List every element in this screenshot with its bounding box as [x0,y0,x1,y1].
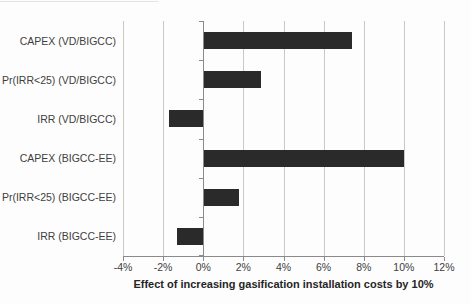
category-axis-tick [199,60,203,61]
bar [177,228,203,245]
category-label: CAPEX (VD/BIGCC) [0,34,116,48]
bar [203,150,404,167]
x-tick-label: 10% [393,261,414,273]
x-tick-label: -2% [154,261,173,273]
x-tick-label: 4% [276,261,291,273]
category-axis-tick [199,21,203,22]
category-axis-tick [199,139,203,140]
bar [203,32,351,49]
category-label: Pr(IRR<25) (VD/BIGCC) [0,73,116,87]
bar [203,71,261,88]
x-tick-label: -4% [114,261,133,273]
gridline [324,21,325,256]
x-tick-label: 6% [316,261,331,273]
category-axis-tick [199,217,203,218]
category-axis-line [203,21,204,256]
category-axis-tick [199,178,203,179]
bar [203,189,239,206]
scan-artifact-line [0,1,158,2]
category-axis-tick [199,99,203,100]
x-tick-label: 2% [236,261,251,273]
category-label: IRR (BIGCC-EE) [0,229,116,243]
gridline [243,21,244,256]
x-tick-label: 12% [433,261,454,273]
category-label: IRR (VD/BIGCC) [0,112,116,126]
gridline [163,21,164,256]
category-axis-tick [199,255,203,256]
plot-area [123,21,444,256]
category-label: CAPEX (BIGCC-EE) [0,151,116,165]
x-tick-label: 8% [356,261,371,273]
category-label: Pr(IRR<25) (BIGCC-EE) [0,190,116,204]
gridline [123,21,124,256]
sensitivity-bar-chart: CAPEX (VD/BIGCC)Pr(IRR<25) (VD/BIGCC)IRR… [0,0,471,304]
bar [169,110,203,127]
gridline [404,21,405,256]
x-axis-title: Effect of increasing gasification instal… [123,278,444,290]
gridline [364,21,365,256]
x-tick-label: 0% [196,261,211,273]
gridline [444,21,445,256]
gridline [284,21,285,256]
